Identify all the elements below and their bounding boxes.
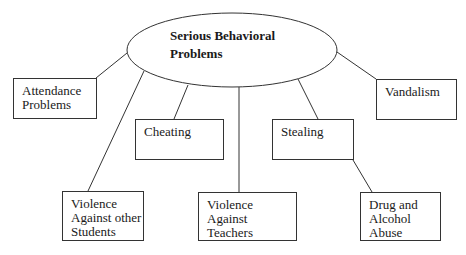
node-violence-against-students: Violence Against other Students	[62, 191, 144, 241]
node-label-line: Teachers	[207, 226, 296, 240]
root-label-line2: Problems	[170, 45, 310, 63]
node-label-line: Abuse	[369, 226, 440, 240]
edge-root-cheating	[174, 85, 188, 119]
node-stealing: Stealing	[272, 119, 354, 160]
node-label-line: Against other	[71, 211, 143, 225]
node-label-line: Alcohol	[369, 212, 440, 226]
node-label-line: Attendance	[22, 84, 96, 98]
node-label-line: Vandalism	[385, 85, 456, 99]
node-drug-alcohol-abuse: Drug and Alcohol Abuse	[360, 192, 441, 241]
node-label-line: Students	[71, 225, 143, 239]
node-attendance-problems: Attendance Problems	[13, 78, 97, 119]
node-label-line: Cheating	[144, 125, 223, 139]
node-label-line: Drug and	[369, 198, 440, 212]
node-label-line: Violence	[71, 197, 143, 211]
edge-root-stealing	[298, 79, 318, 119]
root-node-label: Serious Behavioral Problems	[170, 27, 310, 63]
node-cheating: Cheating	[135, 119, 224, 160]
node-label-line: Stealing	[281, 125, 353, 139]
edge-root-attendance	[96, 53, 127, 78]
root-label-line1: Serious Behavioral	[170, 27, 310, 45]
node-label-line: Problems	[22, 98, 96, 112]
node-violence-against-teachers: Violence Against Teachers	[198, 192, 297, 241]
edge-stealing-drug	[353, 160, 372, 192]
node-vandalism: Vandalism	[376, 79, 457, 120]
node-label-line: Violence Against	[207, 198, 296, 226]
edge-root-vandalism	[337, 52, 376, 79]
